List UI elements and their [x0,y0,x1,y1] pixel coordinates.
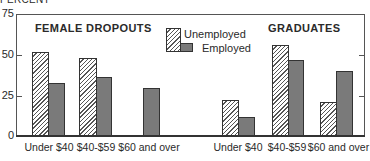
legend-label-employed: Employed [202,42,251,54]
bar-gr-60plus-unemployed [320,102,337,136]
y-axis-title: PERCENT [0,0,50,5]
tick-left-25 [16,96,22,97]
x-label-fd-60plus: $60 and over [118,141,180,153]
x-label-gr-40-59: $40-$59 [267,141,307,153]
bar-fd-60plus-employed [143,88,160,136]
bar-fd-under40-unemployed [32,52,49,136]
x-axis-baseline [16,135,365,137]
x-label-gr-under40: Under $40 [213,141,263,153]
y-tick-25: 25 [0,89,14,101]
bar-gr-under40-unemployed [222,100,239,136]
legend-swatch-unemployed [166,28,181,52]
x-label-fd-under40: Under $40 [24,141,74,153]
bar-fd-40-59-unemployed [79,58,97,136]
legend-label-unemployed: Unemployed [184,28,246,40]
x-label-fd-40-59: $40-$59 [76,141,116,153]
bar-gr-40-59-employed [288,60,304,136]
y-tick-50: 50 [0,48,14,60]
bar-fd-40-59-employed [96,77,112,136]
x-label-gr-60plus: $60 and over [307,141,370,153]
bar-gr-40-59-unemployed [272,45,289,136]
tick-right-25 [359,96,365,97]
tick-left-50 [16,55,22,56]
y-tick-75: 75 [0,7,14,19]
tick-right-50 [359,55,365,56]
legend-swatch-employed [180,43,193,52]
bar-fd-under40-employed [48,83,65,136]
panel-title-graduates: GRADUATES [268,22,340,34]
bar-gr-under40-employed [238,117,255,136]
panel-title-female-dropouts: FEMALE DROPOUTS [35,22,152,34]
y-tick-0: 0 [0,129,14,141]
bar-gr-60plus-employed [336,71,353,136]
